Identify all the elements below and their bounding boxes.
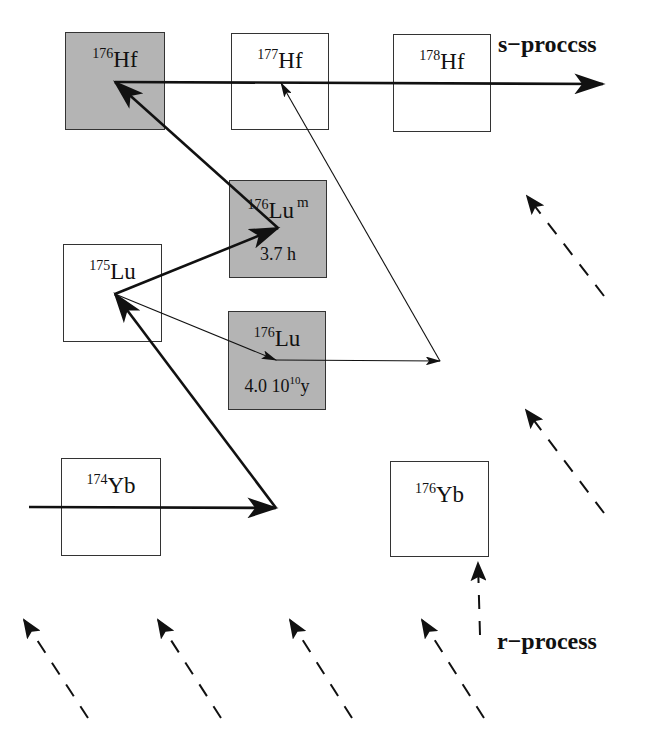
lu176m-to-hf176-beta-arrow xyxy=(115,82,278,228)
lu177-to-hf177-beta-arrow xyxy=(281,83,440,361)
r-feed-3-arrow xyxy=(290,620,352,718)
yb-to-lu175-beta-arrow xyxy=(115,294,276,508)
lu175-to-lu176m-arrow xyxy=(115,228,278,294)
r-feed-yb176-arrow xyxy=(478,563,480,635)
r-feed-4-arrow xyxy=(422,620,484,718)
nuclide-chart-diagram xyxy=(0,0,649,748)
s-process-main-path-arrow xyxy=(115,82,603,84)
r-feed-2-arrow xyxy=(158,620,221,718)
r-feed-lu176-arrow xyxy=(526,410,604,513)
lu176-to-lu177-capture-arrow xyxy=(276,360,440,361)
r-feed-hf176-arrow xyxy=(527,196,604,296)
r-feed-1-arrow xyxy=(24,620,88,718)
yb174-neutron-capture-arrow xyxy=(29,507,276,508)
